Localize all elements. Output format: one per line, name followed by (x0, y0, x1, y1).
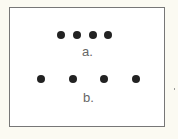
dot-a-2 (73, 31, 81, 39)
dot-b-2 (69, 75, 77, 83)
dot-a-1 (57, 31, 65, 39)
dot-b-4 (132, 75, 140, 83)
dot-a-3 (89, 31, 97, 39)
label-a: a. (82, 44, 93, 59)
dot-b-3 (100, 75, 108, 83)
stray-mark (174, 88, 175, 90)
dot-a-4 (104, 31, 112, 39)
dot-b-1 (37, 75, 45, 83)
figure-frame (9, 7, 165, 127)
label-b: b. (83, 90, 94, 105)
